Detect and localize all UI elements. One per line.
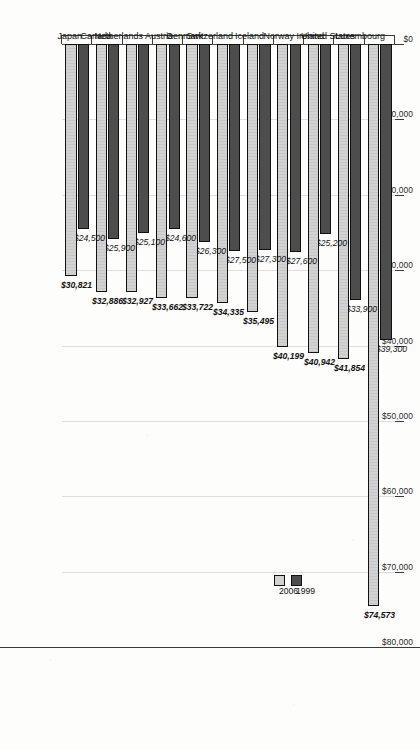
legend: 19992006 [274,575,302,601]
value-tick [395,496,404,497]
bar-value-label: $24,600 [165,233,196,243]
category-tick [394,35,395,44]
legend-label: 2006 [280,586,290,596]
legend-swatch-icon [291,575,302,586]
legend-label: 1999 [297,586,307,596]
bar [186,44,197,298]
bar [138,44,149,233]
bar [156,44,167,298]
bar [217,44,228,303]
bar-value-label: $35,495 [243,316,274,326]
bar [308,44,319,353]
bar-value-label: $34,335 [213,307,244,317]
gridline [62,496,395,497]
bar [169,44,180,229]
value-tick [395,421,404,422]
value-tick [395,119,404,120]
bar [108,44,119,239]
bar [338,44,349,359]
bar [259,44,270,250]
gridline [62,421,395,422]
bar-value-label: $74,573 [364,610,395,620]
bar [126,44,137,292]
value-tick-label: $60,000 [382,486,413,496]
category-label: Ireland [297,31,325,41]
bar [199,44,210,242]
chart-canvas: $0$10,000$20,000$30,000$40,000$50,000$60… [0,0,420,750]
bar [78,44,89,229]
bar-value-label: $27,600 [286,256,317,266]
bar [368,44,379,606]
bar-value-label: $40,942 [304,357,335,367]
value-axis [0,647,420,648]
bar-value-label: $25,100 [134,237,165,247]
value-tick-label: $0 [403,34,413,44]
legend-swatch-icon [274,575,285,586]
bar [96,44,107,292]
bar-value-label: $32,927 [122,296,153,306]
bar [290,44,301,252]
category-label: Canada [81,31,113,41]
bar-value-label: $41,854 [334,363,365,373]
bar [229,44,240,251]
bar [277,44,288,347]
bar [350,44,361,300]
category-label: Austria [145,31,173,41]
value-tick [395,44,404,45]
value-tick [395,270,404,271]
bar [65,44,76,276]
category-label: Iceland [235,31,264,41]
bar-value-label: $24,500 [74,233,105,243]
bar-value-label: $33,722 [182,302,213,312]
bar-value-label: $25,200 [316,238,347,248]
bar-chart: $0$10,000$20,000$30,000$40,000$50,000$60… [0,0,420,750]
bar-value-label: $33,662 [152,302,183,312]
legend-item-2006: 2006 [274,575,285,601]
value-tick-label: $80,000 [382,637,413,647]
bar-value-label: $32,886 [92,296,123,306]
bar-value-label: $30,821 [61,280,92,290]
bar [380,44,391,340]
bar-value-label: $40,199 [273,351,304,361]
category-label: Norway [264,31,295,41]
bar-value-label: $26,300 [195,246,226,256]
plot-area: $0$10,000$20,000$30,000$40,000$50,000$60… [62,44,395,647]
value-tick-label: $50,000 [382,411,413,421]
bar-value-label: $33,900 [346,304,377,314]
scanned-page: $0$10,000$20,000$30,000$40,000$50,000$60… [0,0,420,750]
bar-value-label: $27,300 [255,254,286,264]
bar [247,44,258,312]
category-label: Japan [58,31,83,41]
value-tick-label: $70,000 [382,562,413,572]
bar-value-label: $25,900 [104,243,135,253]
bar-value-label: $39,300 [376,344,407,354]
gridline [62,572,395,573]
bar [320,44,331,234]
bar-value-label: $27,500 [225,255,256,265]
